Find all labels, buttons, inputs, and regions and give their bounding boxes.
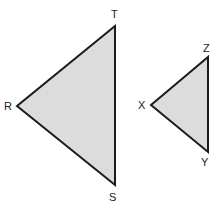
vertex-label-s: S (109, 191, 116, 203)
triangle-xyz (151, 57, 208, 152)
vertex-label-z: Z (203, 42, 210, 54)
vertex-label-x: X (138, 99, 146, 111)
vertex-label-y: Y (201, 156, 209, 168)
triangle-diagram: T R S Z X Y (0, 0, 216, 203)
vertex-label-r: R (4, 100, 12, 112)
vertex-label-t: T (111, 8, 118, 20)
triangle-rst (17, 26, 115, 185)
